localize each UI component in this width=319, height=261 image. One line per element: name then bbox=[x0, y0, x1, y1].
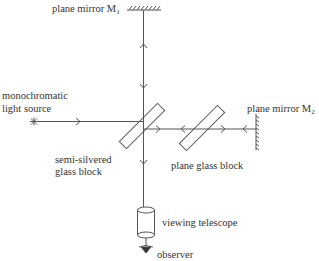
splitter-label-line2: glass block bbox=[55, 166, 102, 178]
plane-glass-block bbox=[179, 105, 224, 150]
telescope-label: viewing telescope bbox=[162, 217, 238, 229]
source-label-line2: light source bbox=[2, 103, 51, 115]
mirror-m2-label: plane mirror M2 bbox=[247, 103, 315, 118]
splitter-label-line1: semi-silvered bbox=[55, 154, 112, 166]
mirror-m1 bbox=[127, 6, 161, 10]
diagram-drawing bbox=[0, 0, 319, 261]
source-label-line1: monochromatic bbox=[2, 90, 68, 102]
observer-label: observer bbox=[157, 249, 193, 261]
mirror-m1-label: plane mirror M1 bbox=[52, 3, 120, 18]
mirror-m2 bbox=[256, 114, 259, 150]
telescope-icon bbox=[138, 207, 155, 238]
compensator-label: plane glass block bbox=[171, 160, 243, 172]
semi-silvered-block bbox=[119, 103, 164, 148]
interferometer-diagram: plane mirror M1 monochromatic light sour… bbox=[0, 0, 319, 261]
light-source-icon bbox=[30, 118, 38, 126]
observer-eye-icon bbox=[139, 246, 153, 254]
